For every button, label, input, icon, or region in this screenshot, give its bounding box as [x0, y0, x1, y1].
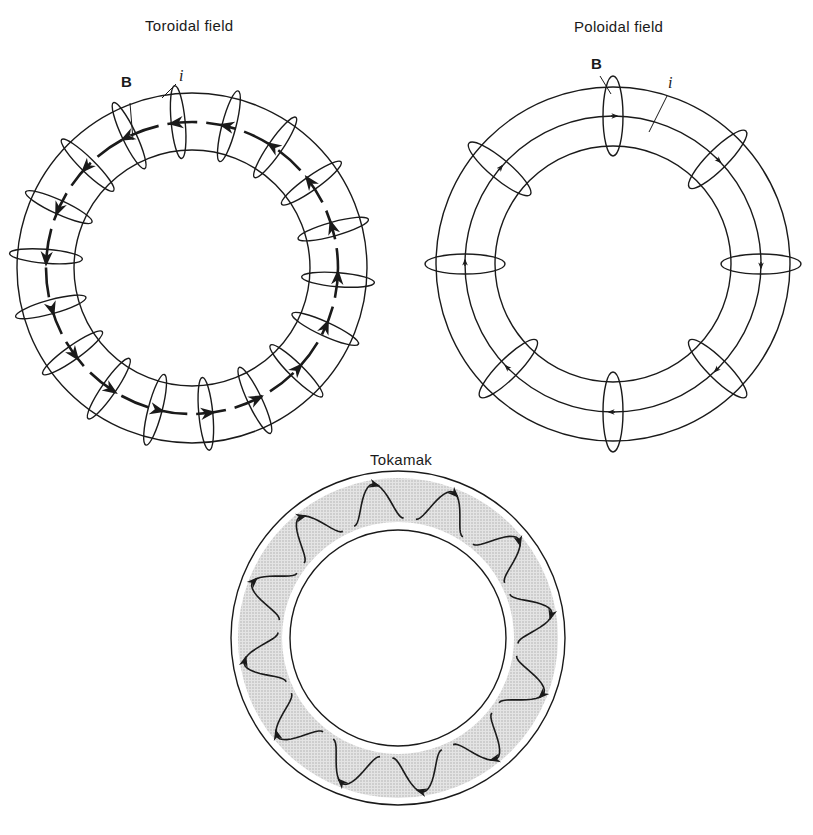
field-arrow-icon	[331, 222, 333, 229]
coil-loop	[249, 113, 302, 181]
poloidal-inner-ring	[495, 146, 731, 382]
field-arrow-icon	[325, 322, 328, 329]
loop-arrow-icon	[716, 158, 720, 162]
loop-arrow-icon	[715, 367, 719, 371]
tokamak-diagram	[231, 471, 565, 805]
loop-arrow-icon	[498, 166, 502, 171]
diagram-canvas: B i B i	[0, 0, 813, 835]
poloidal-outer-ring	[436, 87, 790, 441]
torus-outer-wall	[17, 93, 367, 443]
poloidal-b-label: B	[591, 55, 602, 72]
toroidal-field-diagram	[9, 84, 375, 451]
poloidal-current-ring	[465, 116, 761, 412]
field-arrow-icon	[56, 207, 59, 214]
field-arrow-icon	[255, 397, 262, 400]
field-arrow-icon	[206, 412, 213, 413]
i-leader-line	[162, 84, 176, 98]
toroidal-field-arrows	[46, 123, 338, 414]
poloidal-loops	[425, 76, 801, 452]
field-arrow-icon	[296, 365, 301, 370]
coil-loop	[139, 373, 171, 447]
poloidal-field-diagram	[425, 76, 801, 452]
coil-loop	[107, 100, 151, 172]
torus-inner-wall	[74, 150, 310, 386]
plasma-region	[260, 500, 536, 776]
toroidal-coils	[9, 85, 375, 451]
tokamak-inner-wall	[290, 530, 506, 746]
toroidal-field-line	[46, 122, 338, 414]
i-leader-line	[649, 96, 667, 132]
toroidal-i-label: i	[179, 67, 183, 84]
coil-loop	[265, 340, 327, 401]
field-arrow-icon	[171, 123, 178, 124]
loop-arrow-icon	[506, 366, 510, 370]
field-arrow-icon	[123, 136, 130, 139]
poloidal-i-label: i	[668, 74, 672, 91]
field-arrow-icon	[51, 307, 53, 314]
toroidal-b-label: B	[121, 73, 132, 90]
